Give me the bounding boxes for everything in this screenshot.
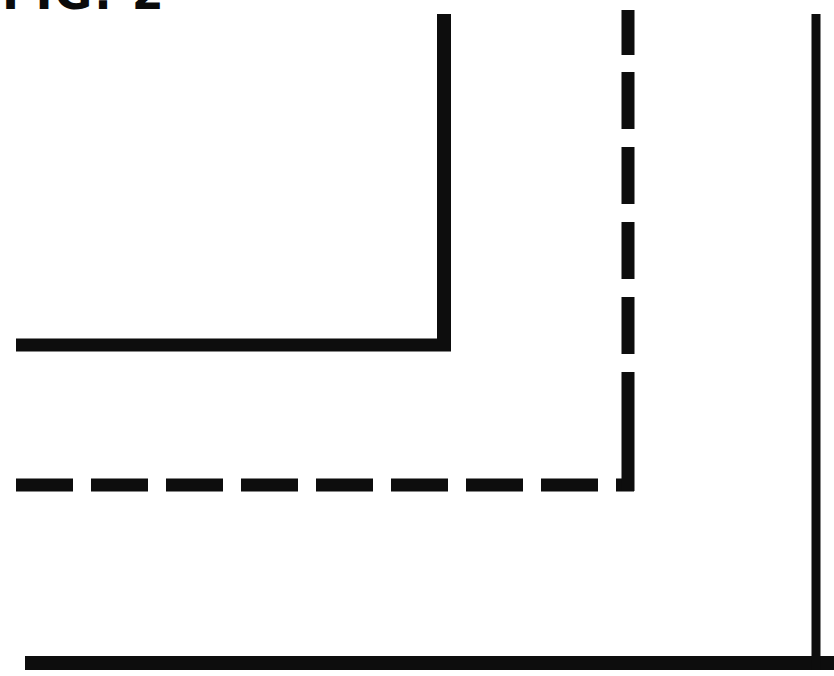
paper-background (0, 0, 834, 676)
line-drawing-canvas (0, 0, 834, 676)
figure-page: FIG. 2 (0, 0, 834, 676)
